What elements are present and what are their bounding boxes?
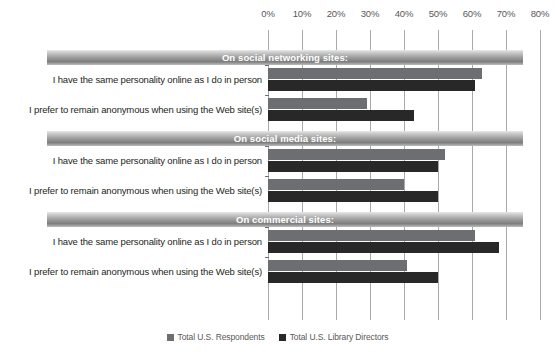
chart-row: I prefer to remain anonymous when using … (0, 95, 555, 125)
chart-row: I have the same personality online as I … (0, 146, 555, 176)
bar-pair (268, 257, 540, 287)
y-axis-tickmark (265, 65, 269, 66)
section-header-band: On social media sites: (47, 131, 523, 146)
x-axis-tick-label: 80% (520, 8, 555, 19)
category-label: I have the same personality online as I … (53, 146, 262, 176)
bar (268, 260, 407, 271)
legend-item[interactable]: Total U.S. Library Directors (279, 332, 389, 342)
category-label: I prefer to remain anonymous when using … (29, 257, 262, 287)
legend-label: Total U.S. Library Directors (290, 332, 389, 342)
y-axis-tickmark (265, 176, 269, 177)
chart-row: I have the same personality online as I … (0, 227, 555, 257)
y-axis-tickmark (265, 146, 269, 147)
category-label: I have the same personality online as I … (53, 65, 262, 95)
legend-label: Total U.S. Respondents (178, 332, 265, 342)
bar (268, 272, 438, 283)
category-label: I have the same personality online as I … (53, 227, 262, 257)
bar-pair (268, 227, 540, 257)
y-axis-tickmark (265, 257, 269, 258)
legend-swatch-icon (279, 334, 286, 341)
grouped-bar-chart: 0%10%20%30%40%50%60%70%80% On social net… (0, 0, 555, 355)
y-axis-tickmark (265, 227, 269, 228)
bar (268, 242, 499, 253)
bar-pair (268, 176, 540, 206)
bar (268, 68, 482, 79)
section-header-label: On commercial sites: (236, 214, 334, 225)
bar (268, 191, 438, 202)
bar-pair (268, 146, 540, 176)
legend-item[interactable]: Total U.S. Respondents (167, 332, 265, 342)
chart-row: I prefer to remain anonymous when using … (0, 176, 555, 206)
section-header-band: On social networking sites: (47, 50, 523, 65)
section-header-label: On social networking sites: (222, 52, 348, 63)
bar-pair (268, 95, 540, 125)
chart-row: I have the same personality online as I … (0, 65, 555, 95)
bar-pair (268, 65, 540, 95)
chart-legend: Total U.S. RespondentsTotal U.S. Library… (0, 332, 555, 342)
section-header-band: On commercial sites: (47, 212, 523, 227)
bar (268, 161, 438, 172)
bar (268, 110, 414, 121)
chart-row: I prefer to remain anonymous when using … (0, 257, 555, 287)
y-axis-tickmark (265, 95, 269, 96)
bar (268, 179, 404, 190)
bar (268, 98, 367, 109)
bar (268, 80, 475, 91)
x-axis-tick-labels: 0%10%20%30%40%50%60%70%80% (0, 8, 555, 22)
category-label: I prefer to remain anonymous when using … (29, 176, 262, 206)
legend-swatch-icon (167, 334, 174, 341)
bar (268, 230, 475, 241)
category-label: I prefer to remain anonymous when using … (29, 95, 262, 125)
section-header-label: On social media sites: (234, 133, 337, 144)
bar (268, 149, 445, 160)
